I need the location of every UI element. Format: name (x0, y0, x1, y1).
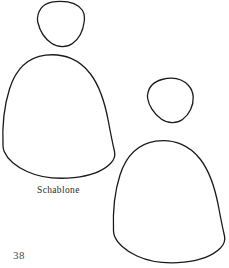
pattern-sheet-page: Schablone 38 (0, 0, 229, 268)
pattern-outlines-canvas (0, 0, 229, 268)
pattern-caption: Schablone (37, 186, 80, 196)
page-background (0, 0, 229, 268)
page-number: 38 (13, 250, 25, 261)
